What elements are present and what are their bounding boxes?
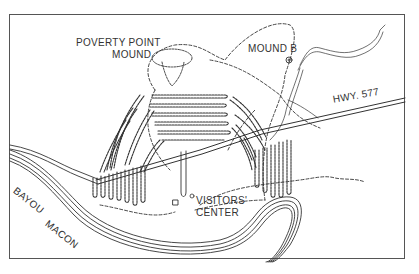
visitors-center-building-icon — [173, 200, 178, 205]
earthwork-ridges-central — [150, 95, 230, 140]
visitors-access-road — [181, 151, 186, 197]
poverty-point-mound-label-line1: POVERTY POINT — [76, 37, 161, 48]
poverty-point-mound-shape — [152, 49, 192, 86]
earthwork-ridges-southwest — [93, 166, 145, 205]
highway-577-road — [96, 98, 405, 184]
mound-b-label: MOUND B — [248, 43, 297, 54]
visitors-center-label-line2: CENTER — [196, 207, 239, 218]
visitors-center-label-line1: VISITORS' — [196, 195, 247, 206]
poverty-point-mound-label-line2: MOUND — [112, 49, 151, 60]
earthwork-ridges-west — [100, 95, 164, 172]
bayou-macon-river — [10, 150, 301, 262]
